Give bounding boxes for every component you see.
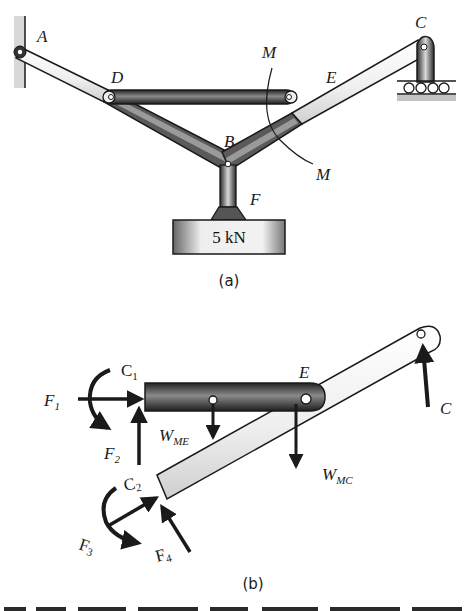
label-b: B (224, 132, 235, 151)
hanger-base (211, 207, 246, 220)
force-c-arrow (423, 347, 428, 407)
figure-a: 5 kN A D B E C F M M (a) (14, 13, 456, 290)
member-mc (157, 326, 440, 499)
label-f4: F4 (153, 544, 173, 567)
roller-support-c (397, 81, 456, 101)
member-adb (16, 47, 228, 172)
load-label: 5 kN (212, 228, 246, 247)
pin-me-center (209, 396, 217, 404)
truss-diagram: 5 kN A D B E C F M M (a) (0, 0, 472, 611)
label-d: D (110, 68, 124, 87)
pin-c (421, 44, 427, 50)
label-f1: F1 (43, 391, 60, 412)
hanger-bf (220, 165, 236, 207)
label-wme: WME (159, 426, 189, 447)
label-a: A (36, 27, 48, 46)
label-f2: F2 (103, 444, 120, 465)
cropped-text-line (4, 607, 462, 611)
pin-c-fbd (417, 330, 425, 338)
pin-b (225, 161, 231, 167)
label-e-fbd: E (298, 363, 310, 382)
caption-a: (a) (219, 272, 240, 290)
caption-b: (b) (242, 575, 263, 593)
label-c2: C2 (122, 473, 143, 496)
member-me (145, 383, 325, 411)
label-c1: C1 (121, 361, 138, 382)
figure-b: C1 F1 F2 WME E WMC C C2 F3 F4 (b) (43, 326, 452, 593)
label-m-bottom: M (315, 165, 331, 184)
moment-c2-arrow (104, 488, 138, 543)
force-f4-arrow (162, 507, 190, 552)
roller-post-c (417, 36, 434, 82)
member-de (104, 90, 294, 104)
label-wmc: WMC (322, 465, 353, 486)
label-c: C (415, 13, 427, 32)
label-c-fbd: C (440, 399, 452, 418)
label-m-top: M (261, 43, 277, 62)
label-f3: F3 (76, 535, 97, 559)
label-f: F (249, 190, 261, 209)
force-f3-arrow (108, 498, 156, 526)
pin-e-fbd (301, 394, 311, 404)
label-e: E (325, 68, 337, 87)
member-bec (222, 40, 426, 170)
